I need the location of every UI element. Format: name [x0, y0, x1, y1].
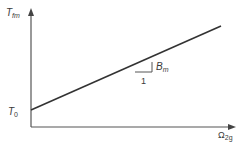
x-axis-arrow-icon	[228, 124, 236, 130]
slope-symbol: B	[156, 61, 163, 72]
slope-subscript: m	[163, 66, 169, 73]
x-axis-label: Ω2g	[218, 131, 233, 141]
y-axis-subscript: fm	[12, 12, 20, 19]
slope-label: Bm	[156, 62, 169, 73]
linear-relationship-diagram: Tfm T0 Bm 1 Ω2g	[0, 0, 249, 144]
intercept-label: T0	[8, 107, 18, 118]
x-axis-subscript: 2g	[225, 134, 233, 141]
run-label: 1	[141, 77, 146, 86]
y-axis-arrow-icon	[28, 8, 34, 16]
x-axis-symbol: Ω	[218, 130, 225, 140]
y-axis-label: Tfm	[6, 8, 20, 19]
diagram-graphics	[0, 0, 249, 144]
data-line	[31, 26, 221, 110]
intercept-subscript: 0	[14, 111, 18, 118]
